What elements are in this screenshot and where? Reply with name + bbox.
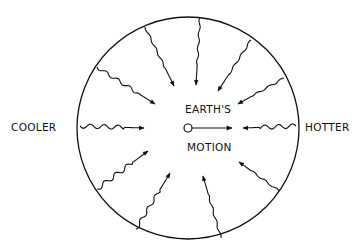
radiation-arrow bbox=[145, 27, 174, 86]
radiation-arrow bbox=[203, 176, 221, 238]
radiation-arrow bbox=[239, 162, 279, 191]
hotter-label: HOTTER bbox=[305, 122, 350, 133]
cooler-label: COOLER bbox=[11, 122, 56, 133]
radiation-arrow bbox=[243, 124, 296, 129]
radiation-arrow bbox=[238, 78, 284, 104]
motion-label: MOTION bbox=[187, 142, 232, 153]
radiation-arrow bbox=[80, 124, 144, 129]
earths-label: EARTH'S bbox=[185, 104, 231, 115]
radiation-arrow bbox=[97, 151, 148, 189]
radiation-arrow bbox=[136, 173, 170, 229]
earth-marker bbox=[184, 124, 192, 132]
radiation-arrow bbox=[196, 17, 200, 85]
radiation-arrow bbox=[218, 40, 251, 91]
radiation-arrow bbox=[97, 67, 155, 104]
